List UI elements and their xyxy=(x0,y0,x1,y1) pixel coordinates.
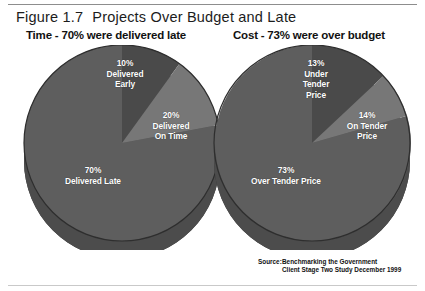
figure-caption-text: Projects Over Budget and Late xyxy=(92,9,296,25)
source-label: Source: xyxy=(258,258,282,266)
figure-caption: Figure 1.7Projects Over Budget and Late xyxy=(16,9,296,25)
slice-label-under-tender-price: 13% Under Tender Price xyxy=(289,58,343,100)
slice-label-on-tender-price: 14% On Tender Price xyxy=(337,110,397,142)
slice-label-delivered-early: 10% Delivered Early xyxy=(94,58,156,90)
bottom-divider xyxy=(8,285,417,286)
top-divider xyxy=(8,4,417,5)
chart-title-time: Time - 70% were delivered late xyxy=(26,29,186,41)
slice-label-delivered-late: 70% Delivered Late xyxy=(38,165,148,186)
slice-label-delivered-on-time: 20% Delivered On Time xyxy=(140,110,202,142)
source-line-1: Benchmarking the Government xyxy=(282,258,377,265)
chart-title-cost: Cost - 73% were over budget xyxy=(233,29,385,41)
source-line-2: Client Stage Two Study December 1999 xyxy=(282,266,401,274)
figure-number: Figure 1.7 xyxy=(16,9,83,25)
figure-frame: Figure 1.7Projects Over Budget and Late … xyxy=(0,0,425,291)
slice-label-over-tender-price: 73% Over Tender Price xyxy=(228,165,344,186)
source-attribution: Source:Benchmarking the Government Clien… xyxy=(258,258,401,275)
